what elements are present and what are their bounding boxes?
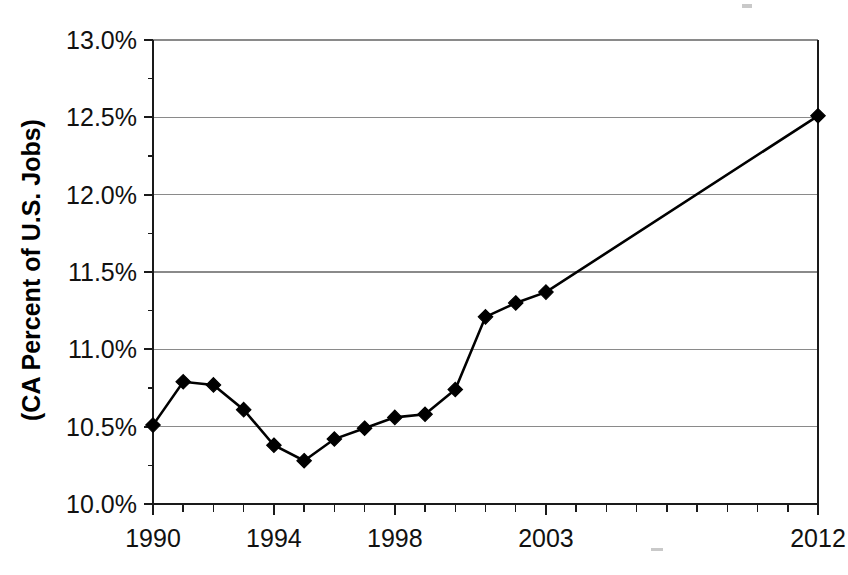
y-axis-title: (CA Percent of U.S. Jobs)	[17, 119, 45, 421]
y-tick-label: 10.0%	[66, 490, 137, 518]
y-tick-label: 13.0%	[66, 26, 137, 54]
chart-container: 10.0%10.5%11.0%11.5%12.0%12.5%13.0% 1990…	[0, 0, 848, 575]
y-tick-label: 10.5%	[66, 413, 137, 441]
line-chart: 10.0%10.5%11.0%11.5%12.0%12.5%13.0% 1990…	[0, 0, 848, 575]
y-tick-label: 12.0%	[66, 181, 137, 209]
chart-background	[0, 0, 848, 575]
scan-speck	[742, 4, 752, 8]
y-tick-label: 12.5%	[66, 103, 137, 131]
x-tick-label: 1994	[246, 524, 302, 552]
x-tick-label: 1998	[367, 524, 423, 552]
y-tick-label: 11.5%	[68, 258, 137, 286]
x-tick-label: 2003	[518, 524, 574, 552]
y-tick-label: 11.0%	[68, 335, 137, 363]
x-tick-label: 2012	[790, 524, 846, 552]
x-tick-label: 1990	[125, 524, 181, 552]
scan-speck	[651, 548, 663, 551]
